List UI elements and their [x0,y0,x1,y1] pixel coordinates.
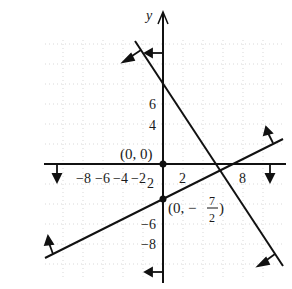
svg-text:−2: −2 [131,171,146,186]
svg-text:−8: −8 [141,237,156,252]
svg-text:): ) [219,200,224,217]
svg-text:4: 4 [149,118,156,133]
svg-text:(0, −: (0, − [168,200,196,217]
svg-text:−8: −8 [76,171,91,186]
svg-text:−6: −6 [95,171,110,186]
svg-text:8: 8 [239,171,246,186]
svg-text:−6: −6 [141,217,156,232]
axes [44,14,286,283]
origin-label: (0, 0) [120,146,153,163]
grid [45,40,285,280]
svg-text:2: 2 [147,176,154,191]
line-direction-arrows [45,50,275,266]
inequality-graph: y (0, 0) −8 −6 −4 −2 2 8 6 4 2 −6 −8 (0,… [0,0,292,289]
svg-text:6: 6 [149,97,156,112]
svg-text:2: 2 [209,211,215,225]
intercept-label: (0, − 7 2 ) [168,194,224,225]
origin-point [160,161,167,168]
svg-text:7: 7 [209,194,215,208]
steep-line [135,41,283,266]
y-intercept-point [160,196,167,203]
svg-text:2: 2 [179,171,186,186]
svg-text:−4: −4 [113,171,128,186]
y-axis-label: y [144,8,153,23]
